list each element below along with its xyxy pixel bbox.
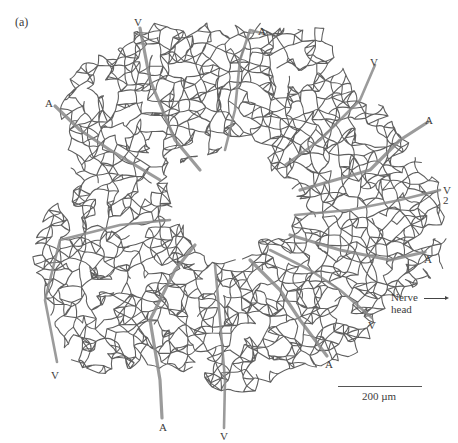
venule-label: V	[370, 57, 378, 68]
venule-label: V	[134, 17, 142, 28]
venule-label: V	[368, 320, 376, 331]
scale-bar-label: 200 µm	[362, 391, 396, 402]
vessel-index-label: 2	[443, 195, 449, 206]
arteriole-label: A	[424, 254, 432, 265]
arteriole-label: A	[325, 359, 333, 370]
panel-label: (a)	[15, 16, 28, 28]
arteriole-label: A	[425, 115, 433, 126]
arteriole-label: A	[159, 422, 167, 433]
right-arrow-icon	[424, 298, 447, 299]
nerve-head-label-line2: head	[391, 303, 412, 315]
arteriole-label: A	[258, 26, 266, 37]
venule-label: V	[51, 370, 59, 381]
capillary-network-drawing	[0, 0, 458, 443]
scale-bar-line	[338, 386, 422, 387]
retinal-vasculature-figure: (a) VAAVAV2AVAVAV Nerve head 200 µm	[0, 0, 458, 443]
arteriole-label: A	[45, 98, 53, 109]
nerve-head-label-line1: Nerve	[391, 291, 418, 303]
venule-label: V	[220, 431, 228, 442]
